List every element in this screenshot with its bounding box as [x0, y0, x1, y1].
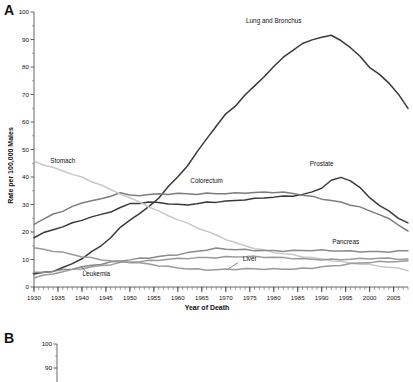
panel-b-letter: B: [4, 330, 14, 346]
x-tick-label: 1980: [267, 294, 281, 301]
x-tick-label: 1985: [291, 294, 305, 301]
series-label-leukemia: Leukemia: [82, 270, 110, 277]
y-tick-label: 0: [26, 283, 30, 290]
series-line-colorectum: [34, 192, 408, 231]
series-label-stomach: Stomach: [50, 157, 76, 164]
y-tick-label: 50: [22, 146, 29, 153]
x-tick-label: 1960: [171, 294, 185, 301]
y-tick-label: 10: [22, 256, 29, 263]
x-tick-label: 1970: [219, 294, 233, 301]
x-tick-label: 1945: [99, 294, 113, 301]
line-chart-panel-a: 0102030405060708090100193019351940194519…: [0, 0, 413, 382]
panel-b-y-tick-label: 100: [42, 340, 53, 347]
leader-line-liver: [229, 263, 239, 269]
x-tick-label: 1975: [243, 294, 257, 301]
y-tick-label: 60: [22, 118, 29, 125]
x-tick-label: 1955: [147, 294, 161, 301]
x-tick-label: 2000: [363, 294, 377, 301]
axes-layer: 0102030405060708090100193019351940194519…: [19, 8, 408, 301]
series-label-pancreas: Pancreas: [332, 238, 359, 245]
y-tick-label: 80: [22, 63, 29, 70]
x-tick-label: 1935: [51, 294, 65, 301]
x-tick-label: 1990: [315, 294, 329, 301]
series-label-colorectum: Colorectum: [190, 177, 223, 184]
y-tick-label: 90: [22, 36, 29, 43]
panel-a-letter: A: [4, 2, 14, 18]
x-tick-label: 1965: [195, 294, 209, 301]
series-line-prostate: [34, 177, 408, 237]
x-tick-label: 1940: [75, 294, 89, 301]
y-tick-label: 20: [22, 228, 29, 235]
x-axis-title: Year of Death: [152, 304, 262, 311]
series-labels-layer: Lung and BronchusProstateColorectumStoma…: [50, 17, 359, 277]
series-label-prostate: Prostate: [310, 160, 334, 167]
series-label-lung-and-bronchus: Lung and Bronchus: [246, 17, 301, 25]
figure-container: A B Year of Death Rate per 100,000 Males…: [0, 0, 413, 382]
y-axis-title: Rate per 100,000 Males: [7, 106, 14, 226]
y-tick-label: 40: [22, 173, 29, 180]
series-label-liver: Liver: [243, 255, 258, 262]
panel-b-axes-layer: 10090: [42, 340, 57, 382]
panel-b-y-tick-label: 90: [45, 364, 52, 371]
y-tick-label: 70: [22, 91, 29, 98]
y-tick-label: 100: [19, 8, 30, 15]
y-tick-label: 30: [22, 201, 29, 208]
x-tick-label: 1950: [123, 294, 137, 301]
x-tick-label: 1995: [339, 294, 353, 301]
x-tick-label: 1930: [27, 294, 41, 301]
x-tick-label: 2005: [387, 294, 401, 301]
